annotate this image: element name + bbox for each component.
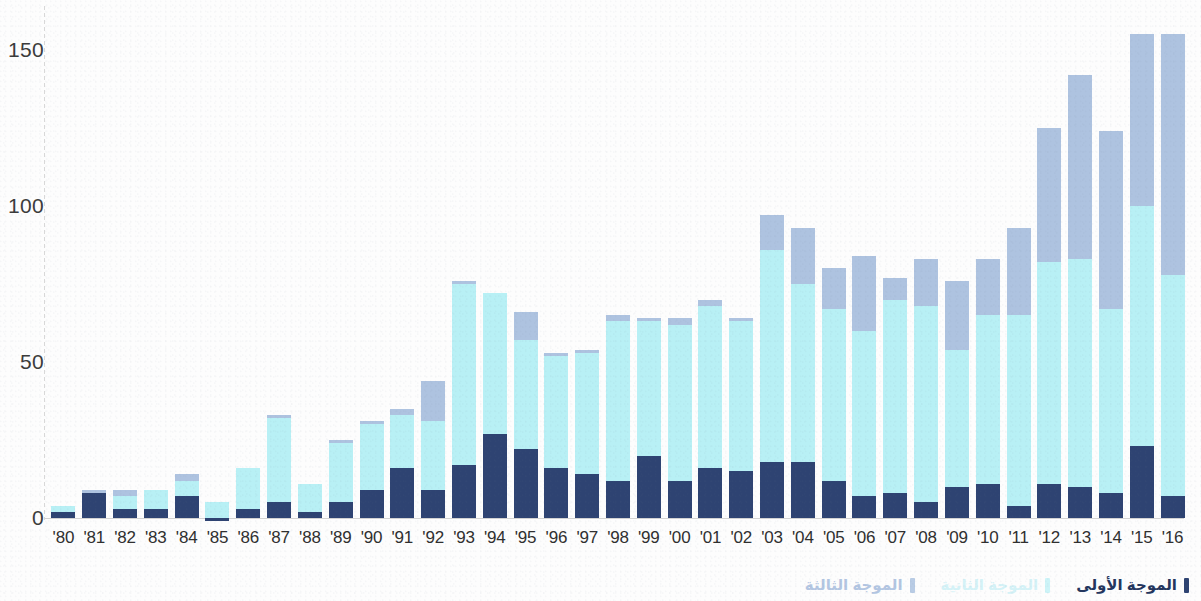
bar-segment-w2 <box>914 306 938 503</box>
bar-segment-w1 <box>606 481 630 518</box>
x-tick-label-04: '04 <box>786 528 820 548</box>
bar-80 <box>51 506 75 518</box>
bar-89 <box>329 440 353 518</box>
bar-83 <box>144 490 168 518</box>
bar-segment-w3 <box>914 259 938 306</box>
x-tick-label-06: '06 <box>847 528 881 548</box>
bar-05 <box>822 268 846 518</box>
bar-15 <box>1130 34 1154 518</box>
x-tick-label-90: '90 <box>355 528 389 548</box>
y-tick-label-150: 150 <box>0 38 44 62</box>
bar-07 <box>883 278 907 518</box>
bar-segment-w2 <box>883 300 907 493</box>
bar-segment-w2 <box>144 490 168 509</box>
bar-segment-w1 <box>483 434 507 518</box>
bar-segment-w1 <box>1130 446 1154 518</box>
bar-segment-w1 <box>1099 493 1123 518</box>
plot-area <box>48 0 1188 518</box>
bar-14 <box>1099 131 1123 518</box>
bar-12 <box>1037 128 1061 518</box>
bar-92 <box>421 381 445 518</box>
x-tick-label-92: '92 <box>416 528 450 548</box>
x-tick-label-03: '03 <box>755 528 789 548</box>
x-tick-label-84: '84 <box>170 528 204 548</box>
bar-00 <box>668 318 692 518</box>
x-tick-label-80: '80 <box>46 528 80 548</box>
bar-segment-w3 <box>852 256 876 331</box>
bar-segment-w1 <box>698 468 722 518</box>
bar-segment-w3 <box>945 281 969 350</box>
bar-02 <box>729 318 753 518</box>
x-tick-label-15: '15 <box>1125 528 1159 548</box>
x-tick-label-94: '94 <box>478 528 512 548</box>
legend-label-w1: الموجة الأولى <box>1076 576 1177 594</box>
bar-segment-w1-negative <box>205 518 229 521</box>
bar-81 <box>82 490 106 518</box>
bar-95 <box>514 312 538 518</box>
x-tick-label-01: '01 <box>693 528 727 548</box>
x-tick-label-83: '83 <box>139 528 173 548</box>
bar-segment-w1 <box>236 509 260 518</box>
bar-segment-w1 <box>175 496 199 518</box>
bar-segment-w1 <box>544 468 568 518</box>
x-tick-label-14: '14 <box>1094 528 1128 548</box>
y-tick-label-100: 100 <box>0 194 44 218</box>
bar-segment-w1 <box>1037 484 1061 518</box>
bar-13 <box>1068 75 1092 518</box>
bar-09 <box>945 281 969 518</box>
bar-segment-w2 <box>1037 262 1061 484</box>
legend-label-w3: الموجة الثالثة <box>805 576 903 594</box>
bar-94 <box>483 293 507 518</box>
x-tick-label-96: '96 <box>539 528 573 548</box>
bar-chart: 050100150 '80'81'82'83'84'85'86'87'88'89… <box>0 0 1201 601</box>
bar-segment-w1 <box>791 462 815 518</box>
bar-86 <box>236 468 260 518</box>
bar-08 <box>914 259 938 518</box>
bar-segment-w1 <box>1161 496 1185 518</box>
bar-segment-w1 <box>51 512 75 518</box>
bar-segment-w2 <box>421 421 445 490</box>
bar-segment-w1 <box>976 484 1000 518</box>
bar-segment-w2 <box>976 315 1000 483</box>
bar-84 <box>175 474 199 518</box>
legend-item-w1[interactable]: الموجة الأولى <box>1076 576 1189 594</box>
bar-segment-w3 <box>514 312 538 340</box>
bar-segment-w3 <box>1037 128 1061 262</box>
bar-segment-w1 <box>267 502 291 518</box>
bar-segment-w1 <box>452 465 476 518</box>
bar-segment-w2 <box>514 340 538 449</box>
bar-segment-w2 <box>637 321 661 455</box>
bar-96 <box>544 353 568 518</box>
bar-segment-w1 <box>360 490 384 518</box>
legend-swatch-w1 <box>1184 578 1189 593</box>
bar-segment-w1 <box>298 512 322 518</box>
bar-segment-w3 <box>822 268 846 309</box>
legend-item-w3[interactable]: الموجة الثالثة <box>805 576 915 594</box>
x-tick-label-99: '99 <box>632 528 666 548</box>
bar-segment-w2 <box>791 284 815 462</box>
legend-item-w2[interactable]: الموجة الثانية <box>941 576 1051 594</box>
bar-06 <box>852 256 876 518</box>
bar-segment-w2 <box>205 502 229 518</box>
bar-segment-w2 <box>298 484 322 512</box>
x-tick-label-86: '86 <box>231 528 265 548</box>
x-tick-label-16: '16 <box>1156 528 1190 548</box>
bar-97 <box>575 350 599 518</box>
bar-segment-w2 <box>267 418 291 502</box>
bar-segment-w2 <box>606 321 630 480</box>
bar-segment-w1 <box>883 493 907 518</box>
bar-segment-w2 <box>1130 206 1154 446</box>
bar-segment-w2 <box>452 284 476 465</box>
bar-segment-w2 <box>575 353 599 475</box>
x-tick-label-88: '88 <box>293 528 327 548</box>
bar-segment-w1 <box>329 502 353 518</box>
x-tick-label-13: '13 <box>1063 528 1097 548</box>
bar-segment-w3 <box>1130 34 1154 206</box>
x-tick-label-12: '12 <box>1032 528 1066 548</box>
bar-segment-w2 <box>822 309 846 481</box>
bar-segment-w2 <box>390 415 414 468</box>
bar-segment-w2 <box>360 424 384 490</box>
bar-segment-w1 <box>82 493 106 518</box>
x-tick-label-00: '00 <box>663 528 697 548</box>
x-tick-label-08: '08 <box>909 528 943 548</box>
